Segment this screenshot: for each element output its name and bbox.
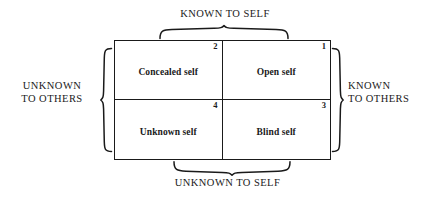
brace-top-icon: [158, 25, 290, 39]
quadrant-label: Blind self: [257, 127, 296, 137]
quadrant-unknown-self[interactable]: 4 Unknown self: [115, 100, 223, 159]
axis-caption-known-to-self: KNOWN TO SELF: [150, 8, 300, 21]
axis-caption-known-to-others: KNOWN TO OTHERS: [348, 80, 436, 105]
quadrant-open-self[interactable]: 1 Open self: [223, 41, 331, 100]
quadrant-number: 1: [322, 42, 326, 51]
quadrant-label: Open self: [257, 67, 296, 77]
johari-matrix: 2 Concealed self 1 Open self 4 Unknown s…: [114, 40, 331, 160]
brace-right-icon: [332, 47, 344, 153]
quadrant-number: 2: [213, 42, 217, 51]
quadrant-number: 3: [322, 101, 326, 110]
axis-caption-unknown-to-self: UNKNOWN TO SELF: [140, 177, 315, 190]
quadrant-label: Concealed self: [138, 67, 198, 77]
axis-caption-unknown-to-others: UNKNOWN TO OTHERS: [6, 80, 98, 105]
brace-left-icon: [100, 47, 112, 153]
quadrant-label: Unknown self: [140, 127, 197, 137]
quadrant-blind-self[interactable]: 3 Blind self: [223, 100, 331, 159]
quadrant-number: 4: [213, 101, 217, 110]
quadrant-concealed-self[interactable]: 2 Concealed self: [115, 41, 223, 100]
brace-bottom-icon: [172, 161, 292, 176]
johari-window-diagram: KNOWN TO SELF UNKNOWN TO OTHERS KNOWN TO…: [0, 0, 438, 201]
